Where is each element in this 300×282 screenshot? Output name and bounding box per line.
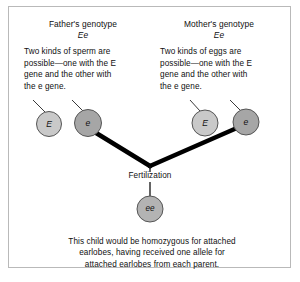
mother-description: Two kinds of eggs are possible—one with … xyxy=(160,46,282,92)
leader-line-father-e xyxy=(72,100,84,112)
father-heading: Father's genotype xyxy=(22,19,144,30)
leader-line-father-E xyxy=(33,100,45,112)
zygote-caption-line-3: attached earlobes from each parent. xyxy=(26,259,278,270)
zygote-caption-line-2: earlobes, having received one allele for xyxy=(26,247,278,258)
genetics-cross-diagram: Father's genotype Ee Mother's genotype E… xyxy=(0,0,300,282)
mother-description-line-2: possible—one with the E xyxy=(160,58,282,70)
fertilization-line-left xyxy=(88,128,150,166)
father-description-line-2: possible—one with the E xyxy=(24,58,144,70)
mother-gamete-e-label: e xyxy=(231,118,261,127)
father-genotype: Ee xyxy=(22,30,144,41)
leader-line-mother-E xyxy=(190,100,200,111)
father-description: Two kinds of sperm are possible—one with… xyxy=(24,46,144,92)
zygote-label: ee xyxy=(135,205,165,213)
father-description-line-1: Two kinds of sperm are xyxy=(24,46,144,58)
father-description-line-4: the e gene. xyxy=(24,81,144,93)
mother-genotype: Ee xyxy=(158,30,280,41)
father-gamete-E-label: E xyxy=(34,120,64,129)
zygote-caption-line-1: This child would be homozygous for attac… xyxy=(26,236,278,247)
mother-description-line-4: the e gene. xyxy=(160,81,282,93)
father-gamete-e-label: e xyxy=(73,119,103,128)
mother-gamete-E-label: E xyxy=(190,119,220,128)
father-description-line-3: gene and the other with xyxy=(24,69,144,81)
father-heading-block: Father's genotype Ee xyxy=(22,19,144,41)
mother-heading: Mother's genotype xyxy=(158,19,280,30)
zygote-caption: This child would be homozygous for attac… xyxy=(26,236,278,270)
mother-description-line-1: Two kinds of eggs are xyxy=(160,46,282,58)
leader-line-mother-e xyxy=(230,100,240,110)
mother-heading-block: Mother's genotype Ee xyxy=(158,19,280,41)
fertilization-label: Fertilization xyxy=(100,170,200,182)
mother-description-line-3: gene and the other with xyxy=(160,69,282,81)
